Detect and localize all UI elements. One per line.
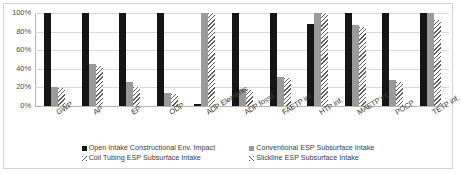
y-tick-label: 0% [20, 102, 31, 110]
bar [44, 13, 51, 106]
chart-legend: Open Intake Constructional Env. ImpactCo… [4, 144, 452, 168]
legend-swatch-icon [82, 146, 87, 151]
bar [427, 13, 434, 106]
bar [201, 13, 208, 106]
legend-column-right: Conventional ESP Subsurface IntakeSlickl… [249, 144, 374, 168]
bar [434, 20, 441, 106]
bar-group [74, 13, 112, 106]
bar-group [374, 13, 412, 106]
bar-group [261, 13, 299, 106]
bar [352, 25, 359, 106]
bar [321, 13, 328, 106]
bar [359, 27, 366, 106]
bar [51, 87, 58, 106]
legend-item: Slickline ESP Subsurface Intake [249, 154, 374, 162]
legend-swatch-icon [249, 146, 254, 151]
y-tick-label: 60% [16, 46, 31, 54]
legend-swatch-icon [249, 156, 254, 161]
legend-item: Conventional ESP Subsurface Intake [249, 144, 374, 152]
bar-group [411, 13, 449, 106]
bar [119, 13, 126, 106]
legend-swatch-icon [82, 156, 87, 161]
bar [157, 13, 164, 106]
bar [89, 64, 96, 106]
bar [314, 13, 321, 106]
bar [284, 78, 291, 106]
bar [345, 13, 352, 106]
bar-group [336, 13, 374, 106]
bar [164, 93, 171, 106]
legend-label: Conventional ESP Subsurface Intake [256, 144, 374, 152]
legend-column-left: Open Intake Constructional Env. ImpactCo… [82, 144, 216, 168]
y-tick-label: 80% [16, 28, 31, 36]
bar [82, 13, 89, 106]
chart-container: 0%20%40%60%80%100% GWPAPEPODPADP Element… [3, 3, 453, 169]
bar [96, 66, 103, 106]
legend-item: Coil Tubing ESP Subsurface Intake [82, 154, 216, 162]
bar-group [186, 13, 224, 106]
legend-label: Slickline ESP Subsurface Intake [256, 154, 359, 162]
bar [194, 104, 201, 106]
bar-group [111, 13, 149, 106]
legend-label: Coil Tubing ESP Subsurface Intake [89, 154, 201, 162]
bar [420, 13, 427, 106]
bar-group [149, 13, 187, 106]
bar-group [299, 13, 337, 106]
legend-item: Open Intake Constructional Env. Impact [82, 144, 216, 152]
bar [126, 82, 133, 106]
bar [389, 80, 396, 106]
bar [277, 77, 284, 106]
legend-label: Open Intake Constructional Env. Impact [89, 144, 216, 152]
bar [208, 13, 215, 106]
y-tick-label: 100% [12, 9, 31, 17]
y-tick-label: 40% [16, 65, 31, 73]
bar-group [36, 13, 74, 106]
y-tick-label: 20% [16, 84, 31, 92]
